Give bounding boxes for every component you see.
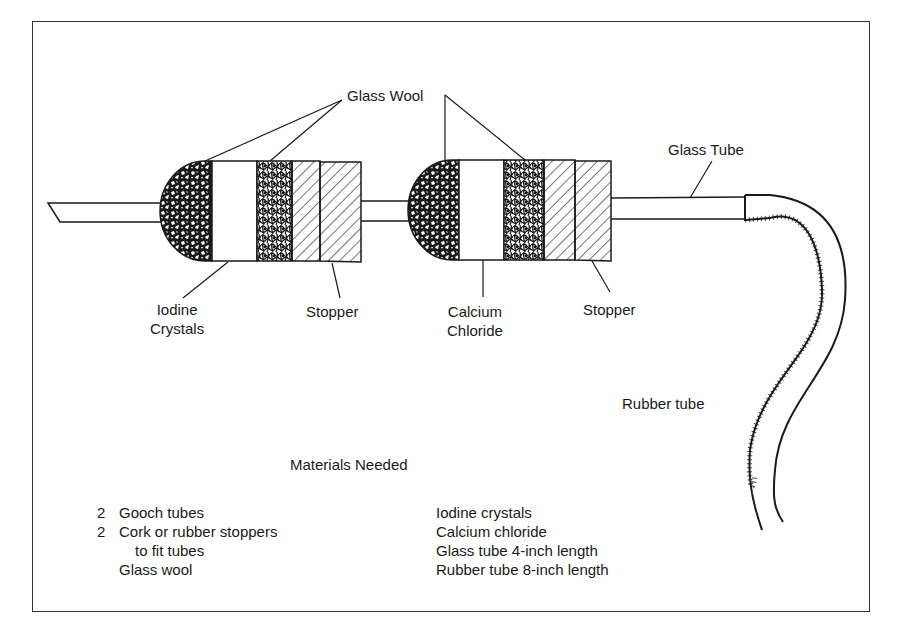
gooch-tube-2 — [408, 160, 611, 261]
label-iodine-crystals: Iodine Crystals — [150, 300, 204, 338]
label-glass-wool: Glass Wool — [347, 86, 423, 105]
materials-item: Iodine crystals — [436, 503, 609, 522]
label-glass-tube: Glass Tube — [668, 140, 744, 159]
label-stopper-2: Stopper — [583, 300, 636, 319]
materials-list-left: 2 Gooch tubes 2 Cork or rubber stoppers … — [97, 503, 277, 579]
materials-qty — [97, 541, 119, 560]
rubber-tube — [745, 195, 846, 530]
materials-text: to fit tubes — [119, 541, 204, 560]
outlet-glass-tube — [611, 197, 745, 219]
label-iodine-line-2: Crystals — [150, 319, 204, 338]
gooch-tube-1 — [160, 161, 361, 262]
materials-qty: 2 — [97, 522, 119, 541]
materials-item: Calcium chloride — [436, 522, 609, 541]
label-calcium-line-1: Calcium — [447, 302, 503, 321]
label-calcium-chloride: Calcium Chloride — [447, 302, 503, 340]
materials-item: 2 Cork or rubber stoppers — [97, 522, 277, 541]
materials-item: Rubber tube 8-inch length — [436, 560, 609, 579]
materials-item: Glass wool — [97, 560, 277, 579]
inlet-glass-tube — [48, 203, 162, 222]
connector-glass-tube — [361, 201, 412, 221]
materials-item: Glass tube 4-inch length — [436, 541, 609, 560]
materials-title: Materials Needed — [290, 456, 408, 473]
label-iodine-line-1: Iodine — [150, 300, 204, 319]
materials-item: to fit tubes — [97, 541, 277, 560]
materials-list-right: Iodine crystals Calcium chloride Glass t… — [436, 503, 609, 579]
materials-qty — [97, 560, 119, 579]
materials-qty: 2 — [97, 503, 119, 522]
label-calcium-line-2: Chloride — [447, 321, 503, 340]
label-rubber-tube: Rubber tube — [622, 394, 705, 413]
materials-text: Glass wool — [119, 560, 192, 579]
materials-text: Cork or rubber stoppers — [119, 522, 277, 541]
label-stopper-1: Stopper — [306, 302, 359, 321]
materials-text: Gooch tubes — [119, 503, 204, 522]
materials-item: 2 Gooch tubes — [97, 503, 277, 522]
